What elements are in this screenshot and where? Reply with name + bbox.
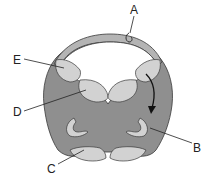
label-e: E <box>13 53 21 67</box>
region-bottom-right <box>110 147 146 161</box>
label-c: C <box>47 162 56 176</box>
label-b: B <box>193 141 201 155</box>
spinal-cord-diagram: A E D B C <box>0 0 213 182</box>
region-c <box>70 147 106 161</box>
leader-a <box>130 16 134 33</box>
label-a: A <box>130 3 138 17</box>
label-d: D <box>13 105 22 119</box>
